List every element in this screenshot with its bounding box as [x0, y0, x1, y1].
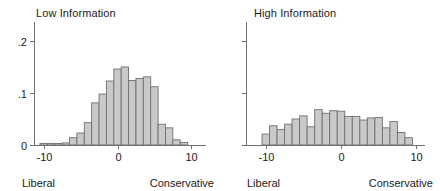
y-tick-label: .2 [18, 36, 27, 48]
x-axis-left-annotation: Liberal [247, 177, 280, 189]
histogram-bar [315, 110, 323, 145]
histogram-bar [62, 143, 69, 145]
histogram-bar [143, 77, 150, 145]
histogram-bar [345, 116, 353, 145]
histogram-bar [40, 143, 47, 145]
panel-high-information: High Information -10010LiberalConservati… [220, 0, 440, 191]
histogram-bar [337, 111, 345, 145]
histogram-bar [390, 122, 398, 145]
histogram-bar [405, 138, 413, 145]
histogram-bar [262, 134, 270, 145]
histogram-bar [55, 143, 62, 145]
y-tick-label: .1 [18, 88, 27, 100]
histogram-bar [360, 120, 368, 145]
x-tick-label: 10 [185, 151, 197, 163]
x-tick-label: -10 [37, 151, 53, 163]
histogram-bar [322, 113, 330, 145]
histogram-bar [92, 103, 99, 145]
histogram-bar [158, 124, 165, 145]
histogram-bar [277, 129, 285, 145]
x-axis-right-annotation: Conservative [150, 177, 214, 189]
histogram-bar [151, 87, 158, 145]
histogram-bar [84, 123, 91, 145]
histogram-bar [270, 126, 278, 145]
x-tick-label: -10 [259, 151, 275, 163]
x-axis-right-annotation: Conservative [369, 177, 433, 189]
histogram-bar [121, 67, 128, 145]
histogram-bar [136, 78, 143, 145]
histogram-bar [367, 118, 375, 145]
plot-area-low-information: 0.1.2-10010LiberalConservative [0, 0, 220, 191]
y-tick-label: 0 [21, 140, 27, 152]
histogram-bar [99, 94, 106, 145]
panel-low-information: Low Information 0.1.2-10010LiberalConser… [0, 0, 220, 191]
histogram-bar [70, 138, 77, 145]
x-axis-left-annotation: Liberal [22, 177, 55, 189]
x-tick-label: 0 [115, 151, 121, 163]
histogram-bar [292, 119, 300, 145]
histogram-bar [77, 133, 84, 145]
histogram-bar [173, 140, 180, 145]
histogram-bar [47, 143, 54, 145]
histogram-bar [330, 111, 338, 145]
plot-area-high-information: -10010LiberalConservative [220, 0, 440, 191]
histogram-bar [114, 69, 121, 145]
histogram-bar [285, 124, 293, 145]
histogram-bar [307, 127, 315, 145]
histogram-bar [165, 128, 172, 145]
histogram-bar [300, 116, 308, 145]
histogram-bar [352, 116, 360, 145]
histogram-bar [180, 142, 187, 145]
histogram-bar [382, 128, 390, 145]
x-tick-label: 10 [410, 151, 422, 163]
histogram-figure: Low Information 0.1.2-10010LiberalConser… [0, 0, 440, 191]
histogram-bar [397, 133, 405, 145]
histogram-bar [129, 81, 136, 145]
histogram-bar [375, 117, 383, 145]
x-tick-label: 0 [338, 151, 344, 163]
histogram-bar [106, 81, 113, 145]
